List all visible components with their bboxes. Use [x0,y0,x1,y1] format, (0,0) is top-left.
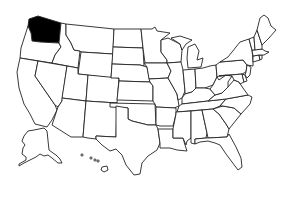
state-kansas[interactable] [117,81,153,101]
state-colorado[interactable] [86,75,119,103]
state-hawaii[interactable] [81,154,108,172]
state-washington[interactable] [28,16,61,43]
state-arkansas[interactable] [156,107,176,126]
state-alaska[interactable] [19,128,62,166]
state-south-dakota[interactable] [112,47,144,66]
us-map [0,0,289,202]
state-rhode-island[interactable] [259,55,262,60]
state-florida[interactable] [195,134,242,170]
state-north-dakota[interactable] [113,29,143,48]
